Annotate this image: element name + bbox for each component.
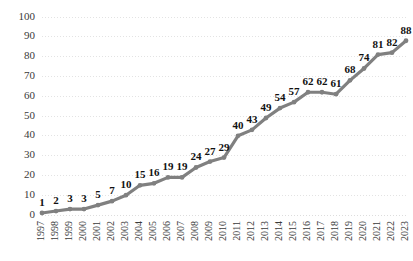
data-point-marker <box>348 78 353 83</box>
data-point-label: 74 <box>359 51 371 63</box>
data-point-label: 62 <box>303 75 315 87</box>
data-point-marker <box>152 181 157 186</box>
data-point-marker <box>320 90 325 95</box>
x-axis-tick-label: 2006 <box>161 221 172 241</box>
data-point-label: 15 <box>135 168 147 180</box>
x-axis-tick-label: 2016 <box>301 221 312 241</box>
y-axis-tick-label: 40 <box>24 128 36 140</box>
x-axis-tick-label: 2015 <box>287 221 298 241</box>
data-point-marker <box>82 207 87 212</box>
data-point-label: 62 <box>317 75 329 87</box>
y-axis-tick-label: 0 <box>30 208 36 220</box>
data-point-marker <box>124 193 129 198</box>
y-axis-tick-label: 90 <box>24 29 36 41</box>
x-axis-tick-label: 2014 <box>273 221 284 241</box>
x-axis-tick-label: 2005 <box>147 221 158 241</box>
x-axis-tick-label: 2008 <box>189 221 200 241</box>
data-point-label: 3 <box>67 192 73 204</box>
data-point-marker <box>250 127 255 132</box>
x-axis-tick-label: 1999 <box>63 221 74 241</box>
x-axis-tick-label: 2007 <box>175 221 186 241</box>
y-axis-tick-labels: 0102030405060708090100 <box>19 10 36 220</box>
x-axis-tick-label: 2020 <box>357 221 368 241</box>
data-point-label: 54 <box>275 91 287 103</box>
y-axis-tick-label: 70 <box>24 69 36 81</box>
x-axis-tick-labels: 1997199819992000200120022003200420052006… <box>35 221 410 241</box>
x-axis-tick-label: 2010 <box>217 221 228 241</box>
data-point-label: 88 <box>401 24 413 36</box>
data-point-label: 82 <box>387 36 399 48</box>
x-axis-tick-label: 2018 <box>329 221 340 241</box>
data-point-label: 49 <box>261 101 273 113</box>
data-point-label: 57 <box>289 85 301 97</box>
data-point-marker <box>306 90 311 95</box>
gridlines <box>42 17 406 215</box>
x-axis-tick-label: 2012 <box>245 221 256 241</box>
data-point-label: 24 <box>191 150 203 162</box>
data-point-marker <box>54 209 59 214</box>
y-axis-tick-label: 100 <box>19 10 36 22</box>
data-point-marker <box>390 50 395 55</box>
x-axis-tick-label: 2021 <box>371 221 382 241</box>
data-point-label: 29 <box>219 141 231 153</box>
data-point-marker <box>404 38 409 43</box>
data-point-marker <box>138 183 143 188</box>
data-point-label: 19 <box>177 160 189 172</box>
y-axis-tick-label: 60 <box>24 89 36 101</box>
data-point-marker <box>96 203 101 208</box>
y-axis-tick-label: 20 <box>24 168 36 180</box>
data-point-label: 19 <box>163 160 175 172</box>
data-point-label: 3 <box>81 192 87 204</box>
data-point-label: 10 <box>121 178 133 190</box>
data-point-label: 7 <box>109 184 115 196</box>
data-point-marker <box>180 175 185 180</box>
data-point-marker <box>40 211 45 216</box>
data-point-label: 81 <box>373 38 384 50</box>
y-axis-tick-label: 10 <box>24 188 36 200</box>
data-point-label: 61 <box>331 77 342 89</box>
data-point-marker <box>110 199 115 204</box>
x-axis-tick-label: 1998 <box>49 221 60 241</box>
data-point-label: 40 <box>233 119 245 131</box>
x-axis-tick-label: 2009 <box>203 221 214 241</box>
data-point-label: 68 <box>345 63 357 75</box>
data-point-marker <box>208 159 213 164</box>
data-point-label: 43 <box>247 113 259 125</box>
data-point-marker <box>194 165 199 170</box>
data-point-marker <box>278 106 283 111</box>
data-point-marker <box>166 175 171 180</box>
data-point-marker <box>362 66 367 71</box>
x-axis-tick-label: 2011 <box>231 221 242 241</box>
x-axis-tick-label: 2022 <box>385 221 396 241</box>
x-axis-tick-label: 2013 <box>259 221 270 241</box>
data-point-marker <box>376 52 381 57</box>
x-axis-tick-label: 2000 <box>77 221 88 241</box>
x-axis-tick-label: 2004 <box>133 221 144 241</box>
x-axis-tick-label: 2003 <box>119 221 130 241</box>
data-point-marker <box>222 155 227 160</box>
y-axis-tick-label: 80 <box>24 49 36 61</box>
y-axis-tick-label: 30 <box>24 148 36 160</box>
data-point-label: 1 <box>39 196 45 208</box>
data-point-label: 27 <box>205 145 217 157</box>
data-point-marker <box>264 116 269 121</box>
y-axis-tick-label: 50 <box>24 109 36 121</box>
line-chart: 0102030405060708090100 19971998199920002… <box>0 0 413 261</box>
data-point-marker <box>334 92 339 97</box>
data-point-marker <box>236 133 241 138</box>
x-axis-tick-label: 1997 <box>35 221 46 241</box>
data-point-marker <box>68 207 73 212</box>
x-axis-tick-label: 2019 <box>343 221 354 241</box>
x-axis-tick-label: 2017 <box>315 221 326 241</box>
chart-canvas: 0102030405060708090100 19971998199920002… <box>0 0 413 261</box>
data-point-label: 5 <box>95 188 101 200</box>
x-axis-tick-label: 2002 <box>105 221 116 241</box>
x-axis-tick-label: 2023 <box>399 221 410 241</box>
x-axis-tick-label: 2001 <box>91 221 102 241</box>
data-point-label: 16 <box>149 166 161 178</box>
data-point-label: 2 <box>53 194 59 206</box>
data-point-marker <box>292 100 297 105</box>
